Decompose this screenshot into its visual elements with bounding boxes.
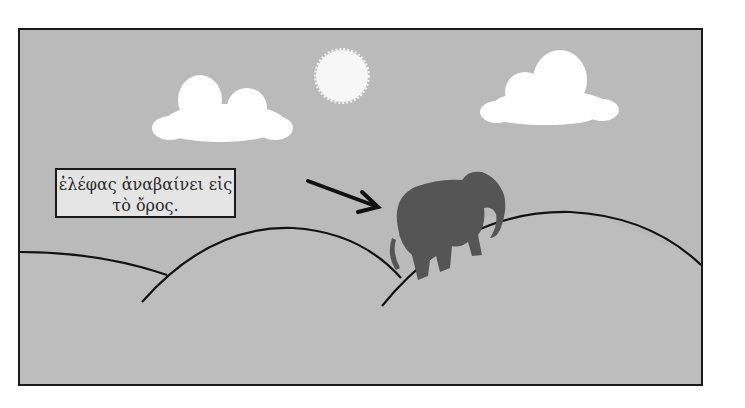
arrow-icon [308,181,378,212]
caption-line-1: ἐλέφας ἀναβαίνει εἰς [57,174,234,195]
illustration-frame: ἐλέφας ἀναβαίνει εἰς τὸ ὄρος. [18,28,703,386]
cloud-left-icon [152,75,293,142]
caption-box: ἐλέφας ἀναβαίνει εἰς τὸ ὄρος. [55,168,236,218]
sun-icon [315,49,369,103]
hills [20,210,701,384]
cloud-right-icon [480,50,619,125]
caption-line-2: τὸ ὄρος. [57,195,234,216]
